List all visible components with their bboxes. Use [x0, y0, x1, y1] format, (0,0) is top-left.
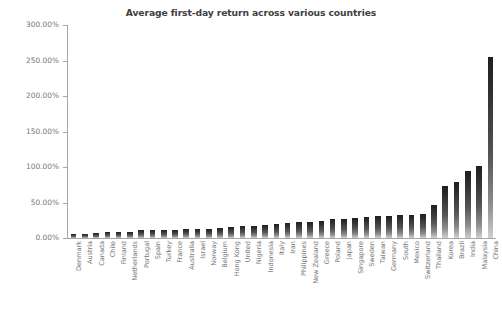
- bar-slot: [395, 25, 406, 238]
- bar[interactable]: [127, 232, 133, 238]
- x-axis-tick-label: Japan: [346, 241, 353, 259]
- bar[interactable]: [183, 229, 189, 238]
- bar[interactable]: [420, 214, 426, 238]
- x-axis-line: [67, 238, 496, 239]
- bar[interactable]: [341, 219, 347, 238]
- x-axis-tick-label: Italy: [279, 241, 286, 255]
- bar[interactable]: [82, 234, 88, 238]
- x-axis-tick-label: Hong Kong: [234, 241, 241, 276]
- bar-slot: [68, 25, 79, 238]
- x-axis-tick-label: Turkey: [166, 241, 173, 262]
- bar[interactable]: [307, 222, 313, 238]
- bar[interactable]: [240, 226, 246, 238]
- bar[interactable]: [330, 219, 336, 238]
- bar[interactable]: [93, 233, 99, 238]
- bar-slot: [305, 25, 316, 238]
- x-axis-tick-label: Philippines: [301, 241, 308, 276]
- x-axis-tick-label: Greece: [324, 241, 331, 264]
- bar[interactable]: [409, 215, 415, 238]
- x-axis-tick-label: France: [177, 241, 184, 263]
- bar-slot: [259, 25, 270, 238]
- bar[interactable]: [386, 216, 392, 238]
- bar-slot: [136, 25, 147, 238]
- x-axis-tick-label: New Zealand: [313, 241, 320, 284]
- x-axis-tick-label: Brazil: [459, 241, 466, 259]
- x-axis-tick-label: Singapore: [358, 241, 365, 274]
- bar-slot: [406, 25, 417, 238]
- x-axis-tick-label: Nigeria: [256, 241, 263, 264]
- bar[interactable]: [228, 227, 234, 238]
- x-axis-tick-label: Canada: [99, 241, 106, 266]
- x-axis-tick-label: Portugal: [144, 241, 151, 268]
- bar-slot: [383, 25, 394, 238]
- x-axis-tick-label: Taiwan: [380, 241, 387, 263]
- bar[interactable]: [296, 222, 302, 238]
- bar[interactable]: [364, 217, 370, 238]
- bar-slot: [147, 25, 158, 238]
- x-axis-tick-label: Denmark: [76, 241, 83, 271]
- x-axis-tick-label: South: [403, 241, 410, 260]
- x-axis-tick-label: Netherlands: [132, 241, 139, 281]
- bar[interactable]: [352, 218, 358, 238]
- x-axis-tick-label: Australia: [189, 241, 196, 270]
- bar-slot: [124, 25, 135, 238]
- bar-slot: [248, 25, 259, 238]
- bar[interactable]: [172, 230, 178, 238]
- x-axis-tick-label: Mexico: [414, 241, 421, 264]
- bar-slot: [417, 25, 428, 238]
- x-axis-tick-label: Germany: [391, 241, 398, 271]
- bar[interactable]: [274, 224, 280, 238]
- bar[interactable]: [397, 215, 403, 238]
- bar-slot: [327, 25, 338, 238]
- bar[interactable]: [442, 186, 448, 238]
- bar-slot: [316, 25, 327, 238]
- bar-slot: [293, 25, 304, 238]
- bar[interactable]: [105, 232, 111, 238]
- bar-slot: [113, 25, 124, 238]
- bar-slot: [214, 25, 225, 238]
- bar-slot: [203, 25, 214, 238]
- bar[interactable]: [150, 230, 156, 238]
- bar-slot: [91, 25, 102, 238]
- bar[interactable]: [476, 166, 482, 238]
- bar-slot: [350, 25, 361, 238]
- chart-title: Average first-day return across various …: [0, 7, 502, 18]
- x-axis-tick-label: Finland: [121, 241, 128, 264]
- x-axis-tick-label: Norway: [211, 241, 218, 266]
- bar[interactable]: [251, 226, 257, 238]
- bar[interactable]: [195, 229, 201, 238]
- bar[interactable]: [262, 225, 268, 238]
- bar-slot: [428, 25, 439, 238]
- x-axis-tick-label: India: [470, 241, 477, 257]
- x-axis-tick-label: Belgium: [222, 241, 229, 268]
- x-axis-tick-label: Spain: [155, 241, 162, 259]
- bar[interactable]: [116, 232, 122, 238]
- x-axis-tick-label: Thailand: [436, 241, 443, 269]
- bar[interactable]: [161, 230, 167, 238]
- bar-slot: [237, 25, 248, 238]
- bar[interactable]: [217, 228, 223, 238]
- bar[interactable]: [488, 57, 494, 238]
- y-axis-tick-label: 300.00%: [26, 21, 59, 28]
- plot-area: [68, 25, 496, 238]
- bar[interactable]: [319, 221, 325, 238]
- bar-slot: [440, 25, 451, 238]
- bar[interactable]: [465, 171, 471, 238]
- bar-slot: [192, 25, 203, 238]
- x-axis-tick-label: Poland: [335, 241, 342, 263]
- bar[interactable]: [375, 216, 381, 238]
- bar[interactable]: [454, 182, 460, 238]
- y-axis-tick-label: 50.00%: [31, 199, 59, 206]
- bar-slot: [271, 25, 282, 238]
- chart-container: Average first-day return across various …: [0, 0, 502, 310]
- x-axis-tick-label: Austria: [87, 241, 94, 264]
- bar[interactable]: [431, 205, 437, 238]
- x-axis-tick-label: Malaysia: [482, 241, 489, 269]
- bar[interactable]: [206, 229, 212, 238]
- bar-slot: [372, 25, 383, 238]
- bar[interactable]: [285, 223, 291, 238]
- x-axis-tick-label: Switzerland: [425, 241, 432, 279]
- bar-slot: [181, 25, 192, 238]
- bar[interactable]: [138, 230, 144, 238]
- bar[interactable]: [71, 234, 77, 238]
